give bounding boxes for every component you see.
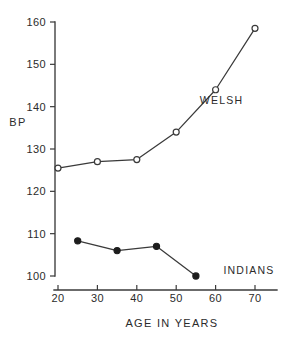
x-tick-label-30: 30 <box>91 292 104 304</box>
x-tick-label-50: 50 <box>170 292 183 304</box>
x-axis-tick-labels: 203040506070 <box>51 292 261 304</box>
x-tick-label-60: 60 <box>209 292 222 304</box>
data-point-welsh-20 <box>55 165 61 171</box>
y-tick-label-150: 150 <box>26 58 46 70</box>
series-line-indians <box>78 241 196 276</box>
y-tick-label-100: 100 <box>26 270 46 282</box>
line-chart-canvas: 100110120130140150160 203040506070 BP AG… <box>0 0 307 339</box>
x-tick-label-20: 20 <box>51 292 64 304</box>
y-axis-tick-labels: 100110120130140150160 <box>26 16 46 282</box>
series-annotation-labels: WELSHINDIANS <box>200 94 275 275</box>
series-label-indians: INDIANS <box>223 264 274 276</box>
data-point-welsh-70 <box>252 25 258 31</box>
x-tick-label-70: 70 <box>248 292 261 304</box>
x-axis-ticks <box>58 285 255 290</box>
data-point-indians-45 <box>153 243 159 249</box>
y-tick-label-120: 120 <box>26 185 46 197</box>
data-point-welsh-60 <box>213 87 219 93</box>
y-tick-label-110: 110 <box>27 228 46 240</box>
data-point-welsh-30 <box>94 159 100 165</box>
chart-figure: 100110120130140150160 203040506070 BP AG… <box>0 0 307 339</box>
data-point-welsh-40 <box>134 157 140 163</box>
y-axis-title: BP <box>9 116 26 128</box>
data-point-indians-35 <box>114 248 120 254</box>
x-tick-label-40: 40 <box>130 292 143 304</box>
y-tick-label-130: 130 <box>26 143 46 155</box>
data-point-welsh-50 <box>173 129 179 135</box>
y-tick-label-140: 140 <box>26 101 46 113</box>
series-label-welsh: WELSH <box>200 94 243 106</box>
y-tick-label-160: 160 <box>26 16 46 28</box>
y-axis-ticks <box>50 22 55 276</box>
x-axis-title: AGE IN YEARS <box>125 317 218 329</box>
data-point-indians-55 <box>193 273 199 279</box>
data-point-indians-25 <box>75 238 81 244</box>
series-layer <box>55 25 258 279</box>
